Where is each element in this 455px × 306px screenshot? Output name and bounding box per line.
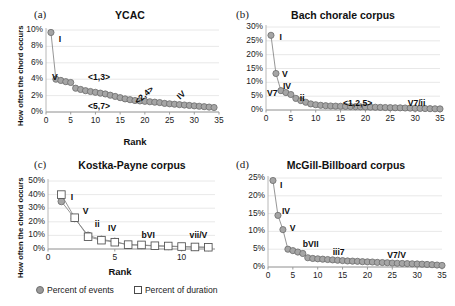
panel-d-xtick: 10 bbox=[306, 271, 330, 280]
panel-c-annotation: ii bbox=[95, 219, 100, 229]
panel-d-ytick: 5% bbox=[228, 244, 265, 253]
legend-label-duration: Percent of duration bbox=[145, 285, 218, 295]
panel-b-xtick: 15 bbox=[329, 114, 353, 123]
panel-b-ytick: 15% bbox=[226, 64, 263, 73]
panel-b-ytick: 0% bbox=[226, 105, 263, 114]
legend-item-events: Percent of events bbox=[36, 285, 114, 295]
panel-b-xtick: 10 bbox=[304, 114, 328, 123]
legend-item-duration: Percent of duration bbox=[134, 285, 218, 295]
panel-a-xtick: 10 bbox=[83, 116, 107, 125]
panel-a-ytick: 2% bbox=[6, 91, 43, 100]
panel-a-ytick: 6% bbox=[6, 58, 43, 67]
panel-d-annotation: I bbox=[280, 180, 282, 190]
panel-c: (c) Kostka-Payne corpus How often the ch… bbox=[0, 153, 228, 306]
panel-c-ytick: 20% bbox=[8, 217, 45, 226]
panel-d-ytick: 10% bbox=[228, 226, 265, 235]
panel-d: (d) McGill-Billboard corpus 0%5%10%15%20… bbox=[228, 153, 455, 306]
panel-b-ytick: 5% bbox=[226, 91, 263, 100]
panel-a-xtick: 25 bbox=[158, 116, 182, 125]
panel-d-xtick: 35 bbox=[430, 271, 454, 280]
panel-a-xtick: 0 bbox=[34, 116, 58, 125]
panel-d-ytick: 25% bbox=[228, 173, 265, 182]
panel-a-xtick: 15 bbox=[108, 116, 132, 125]
panel-c-ytick: 10% bbox=[8, 230, 45, 239]
panel-a-ytick: 8% bbox=[6, 41, 43, 50]
panel-a-xtick: 5 bbox=[59, 116, 83, 125]
panel-b-ytick: 25% bbox=[226, 36, 263, 45]
panel-b-annotation: V bbox=[282, 69, 288, 79]
panel-d-xtick: 25 bbox=[380, 271, 404, 280]
panel-c-xtick: 5 bbox=[103, 253, 127, 262]
panel-b: (b) Bach chorale corpus 0%5%10%15%20%25%… bbox=[228, 0, 455, 153]
panel-a-ytick: 4% bbox=[6, 74, 43, 83]
panel-d-annotation: V bbox=[290, 223, 296, 233]
panel-b-ytick: 20% bbox=[226, 50, 263, 59]
panel-a: (a) YCAC How often the chord occurs Rank… bbox=[0, 0, 228, 153]
panel-c-ytick: 50% bbox=[8, 176, 45, 185]
panel-b-annotation: I bbox=[279, 32, 281, 42]
panel-a-xtick: 30 bbox=[182, 116, 206, 125]
panel-c-xtick: 0 bbox=[36, 253, 60, 262]
panel-c-annotation: vii/V bbox=[190, 230, 208, 240]
panel-a-annotation: V bbox=[52, 72, 58, 82]
panel-b-xtick: 20 bbox=[353, 114, 377, 123]
panel-c-annotation: V bbox=[83, 206, 89, 216]
panel-d-xtick: 5 bbox=[281, 271, 305, 280]
panel-a-xtick: 20 bbox=[133, 116, 157, 125]
panel-d-annotation: IV bbox=[282, 206, 290, 216]
panel-d-xtick: 20 bbox=[355, 271, 379, 280]
panel-d-annotation: V7/V bbox=[387, 250, 406, 260]
panel-b-annotation: V7 bbox=[267, 88, 278, 98]
panel-c-annotation: I bbox=[71, 192, 73, 202]
panel-a-annotation: I bbox=[59, 34, 61, 44]
panel-c-ytick: 30% bbox=[8, 203, 45, 212]
panel-b-annotation: IV bbox=[283, 81, 291, 91]
panel-c-ytick: 40% bbox=[8, 190, 45, 199]
figure-legend: Percent of events Percent of duration bbox=[36, 285, 218, 295]
panel-a-ytick: 0% bbox=[6, 107, 43, 116]
panel-b-ytick: 10% bbox=[226, 77, 263, 86]
panel-d-annotation: bVII bbox=[303, 239, 319, 249]
panel-b-xtick: 30 bbox=[403, 114, 427, 123]
panel-d-ytick: 15% bbox=[228, 209, 265, 218]
panel-c-xtick: 10 bbox=[170, 253, 194, 262]
panel-a-ytick: 10% bbox=[6, 25, 43, 34]
panel-d-xtick: 0 bbox=[256, 271, 280, 280]
panel-b-xtick: 25 bbox=[378, 114, 402, 123]
panel-d-xtick: 30 bbox=[405, 271, 429, 280]
panel-d-ytick: 0% bbox=[228, 262, 265, 271]
panel-a-annotation: <1,3> bbox=[88, 72, 110, 82]
panel-b-annotation: ii bbox=[300, 93, 305, 103]
panel-b-xtick: 5 bbox=[279, 114, 303, 123]
open-square-icon bbox=[134, 286, 142, 294]
panel-c-annotation: bVI bbox=[142, 230, 155, 240]
panel-b-annotation: <1,2,5> bbox=[343, 98, 372, 108]
panel-c-ytick: 0% bbox=[8, 244, 45, 253]
panel-a-annotation: <5,7> bbox=[88, 101, 110, 111]
panel-b-xtick: 35 bbox=[428, 114, 452, 123]
filled-circle-icon bbox=[36, 286, 44, 294]
panel-c-annotation: IV bbox=[108, 223, 116, 233]
panel-d-ytick: 20% bbox=[228, 191, 265, 200]
panel-d-annotation: iii7 bbox=[333, 247, 345, 257]
panel-d-xtick: 15 bbox=[331, 271, 355, 280]
panel-b-annotation: V7/ii bbox=[408, 98, 426, 108]
panel-b-ytick: 30% bbox=[226, 22, 263, 31]
panel-b-xtick: 0 bbox=[254, 114, 278, 123]
legend-label-events: Percent of events bbox=[47, 285, 114, 295]
